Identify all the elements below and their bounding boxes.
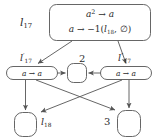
edge-left-to-bottom-right	[36, 80, 115, 110]
node-left-label: l′17	[20, 53, 32, 65]
node-right-arrow: →	[123, 69, 129, 78]
rule-line2-lhs: a	[69, 24, 74, 34]
rule-line2-suffix: )	[128, 24, 132, 34]
node-right-lhs: a	[116, 69, 120, 78]
node-bottom-right-outline[interactable]	[118, 111, 141, 137]
rule-box-label-sub: 17	[24, 22, 33, 30]
node-right-rhs: a	[132, 69, 136, 78]
rule-box-line-2: a → −1(l18, ∅)	[49, 24, 151, 35]
edge-right-to-bottom-left	[41, 80, 122, 112]
edge-rule-to-left	[38, 41, 72, 64]
node-left-lhs: a	[22, 69, 26, 78]
empty-set-icon: ∅	[120, 24, 128, 34]
node-center-outline[interactable]	[68, 64, 87, 83]
node-right-text: a → a	[102, 70, 150, 78]
node-left-text: a → a	[8, 70, 56, 78]
rule-line2-prefix: −1(	[87, 24, 104, 34]
node-center-label: 2	[79, 54, 85, 64]
node-left-label-sub: 17	[25, 58, 32, 64]
rule-line1-arrow: →	[98, 9, 106, 19]
node-left-rhs: a	[38, 69, 42, 78]
rule-box-line-1: a2 → a	[49, 8, 151, 19]
rule-line2-arrow: →	[77, 24, 85, 34]
node-left-arrow: →	[29, 69, 35, 78]
node-bottom-left-outline[interactable]	[15, 113, 37, 137]
node-bottom-left-label: l18	[41, 117, 52, 129]
node-bottom-left-label-sub: 18	[44, 122, 51, 128]
rule-diagram-figure: a2 → a a → −1(l18, ∅) l17 a → a a → a l′…	[0, 0, 156, 139]
node-right-label: l″17	[118, 53, 131, 65]
node-right-label-sub: 17	[124, 58, 131, 64]
rule-line1-exponent: 2	[91, 8, 95, 15]
rule-line1-rhs: a	[109, 9, 114, 19]
node-bottom-right-label: 3	[104, 117, 110, 127]
rule-box-label: l17	[20, 17, 32, 30]
